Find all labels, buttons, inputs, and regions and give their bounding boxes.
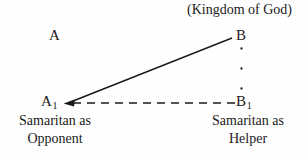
caption-helper-line-2: Helper — [190, 130, 306, 148]
dot-2 — [240, 67, 242, 69]
dot-3 — [240, 87, 242, 89]
kingdom-of-god-caption: (Kingdom of God) — [187, 2, 292, 18]
vertical-dotted-connector — [240, 47, 242, 89]
vertex-b1-subscript: 1 — [247, 100, 252, 111]
vertex-label-a: A — [49, 27, 60, 44]
vertex-b-letter: B — [236, 27, 246, 43]
caption-opponent-line-2: Opponent — [0, 130, 110, 148]
diagonal-line-b-to-a1 — [68, 38, 232, 103]
caption-helper-line-1: Samaritan as — [190, 112, 306, 130]
vertex-a1-subscript: 1 — [53, 100, 58, 111]
dot-1 — [240, 47, 242, 49]
vertex-label-b1: B1 — [236, 93, 251, 110]
vertex-a-letter: A — [49, 27, 60, 43]
caption-samaritan-as-helper: Samaritan as Helper — [190, 112, 306, 148]
diagram-canvas: (Kingdom of God) A B A1 B1 Samaritan as … — [0, 0, 306, 155]
vertex-b1-letter: B — [236, 93, 246, 109]
vertex-label-a1: A1 — [41, 93, 57, 110]
caption-opponent-line-1: Samaritan as — [0, 112, 110, 130]
solid-diagonal-arrow — [64, 38, 233, 107]
caption-samaritan-as-opponent: Samaritan as Opponent — [0, 112, 110, 148]
vertex-label-b: B — [236, 27, 246, 44]
vertex-a1-letter: A — [41, 93, 52, 109]
